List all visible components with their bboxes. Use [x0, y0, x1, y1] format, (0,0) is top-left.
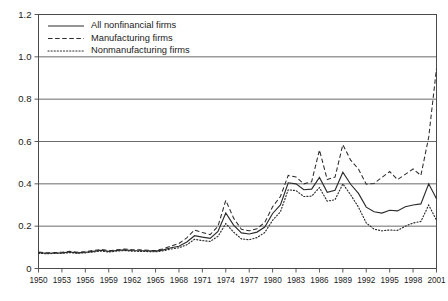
x-tick-label: 2001	[427, 276, 446, 285]
x-tick-label: 1971	[193, 276, 212, 285]
legend-label: Manufacturing firms	[91, 33, 173, 43]
chart-container: 00.20.40.60.81.01.2 19501953195619591962…	[0, 0, 448, 301]
x-tick-label: 1956	[76, 276, 95, 285]
x-axis-tick-labels: 1950195319561959196219651968197119741977…	[29, 276, 446, 285]
series-line-solid	[39, 172, 437, 253]
x-axis-ticks	[39, 269, 437, 273]
y-tick-label: 0	[26, 263, 31, 274]
x-tick-label: 1950	[29, 276, 48, 285]
x-tick-label: 1959	[100, 276, 119, 285]
x-tick-label: 1995	[381, 276, 400, 285]
x-tick-label: 1953	[53, 276, 72, 285]
chart-legend: All nonfinancial firmsManufacturing firm…	[48, 20, 190, 55]
y-axis-ticks	[35, 15, 39, 269]
line-chart: 00.20.40.60.81.01.2 19501953195619591962…	[0, 0, 448, 301]
y-axis-tick-labels: 00.20.40.60.81.01.2	[18, 9, 31, 274]
x-tick-label: 1980	[264, 276, 283, 285]
x-tick-label: 1992	[357, 276, 376, 285]
x-tick-label: 1968	[170, 276, 189, 285]
x-tick-label: 1986	[310, 276, 329, 285]
x-tick-label: 1983	[287, 276, 306, 285]
y-tick-label: 0.8	[18, 93, 31, 104]
legend-label: Nonmanufacturing firms	[91, 45, 190, 55]
x-tick-label: 1962	[123, 276, 142, 285]
x-tick-label: 1974	[217, 276, 236, 285]
x-tick-label: 1989	[334, 276, 353, 285]
y-tick-label: 1.0	[18, 51, 31, 62]
y-tick-label: 0.4	[18, 178, 31, 189]
series-line-dotted	[39, 184, 437, 254]
y-tick-label: 1.2	[18, 9, 31, 20]
x-tick-label: 1998	[404, 276, 423, 285]
legend-label: All nonfinancial firms	[91, 20, 177, 30]
y-tick-label: 0.6	[18, 136, 31, 147]
gridlines	[39, 57, 437, 226]
x-tick-label: 1977	[240, 276, 259, 285]
series-line-dashed	[39, 68, 437, 252]
y-tick-label: 0.2	[18, 220, 31, 231]
x-tick-label: 1965	[146, 276, 165, 285]
